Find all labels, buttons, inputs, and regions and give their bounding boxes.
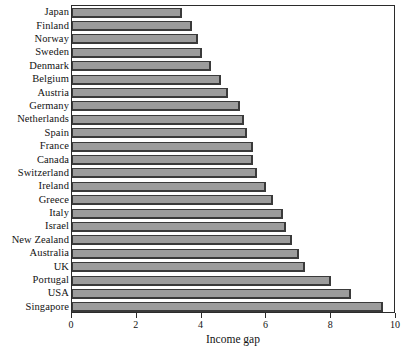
category-label: USA bbox=[0, 287, 69, 298]
bar bbox=[72, 235, 292, 245]
bar-row bbox=[72, 247, 394, 260]
category-label: France bbox=[0, 140, 69, 151]
plot-area bbox=[71, 5, 395, 313]
bar-row bbox=[72, 140, 394, 153]
x-axis-tick bbox=[395, 313, 396, 318]
x-axis-tick-label: 0 bbox=[69, 319, 74, 330]
bar-row bbox=[72, 73, 394, 86]
bar-row bbox=[72, 19, 394, 32]
bar bbox=[72, 262, 305, 272]
bar-row bbox=[72, 46, 394, 59]
bar-row bbox=[72, 167, 394, 180]
bar-row bbox=[72, 234, 394, 247]
category-label: Switzerland bbox=[0, 167, 69, 178]
bar bbox=[72, 302, 383, 312]
category-label: Israel bbox=[0, 220, 69, 231]
bar bbox=[72, 75, 221, 85]
x-axis-tick-label: 10 bbox=[390, 319, 400, 330]
category-label: UK bbox=[0, 261, 69, 272]
bar bbox=[72, 48, 202, 58]
bar bbox=[72, 142, 253, 152]
bar bbox=[72, 101, 240, 111]
category-label: Portugal bbox=[0, 274, 69, 285]
bar-row bbox=[72, 86, 394, 99]
category-label: Italy bbox=[0, 207, 69, 218]
bar-row bbox=[72, 60, 394, 73]
category-label: Canada bbox=[0, 154, 69, 165]
category-label: Ireland bbox=[0, 180, 69, 191]
x-axis-tick bbox=[330, 313, 331, 318]
x-axis-title: Income gap bbox=[71, 333, 395, 345]
bar-row bbox=[72, 301, 394, 314]
category-label: Belgium bbox=[0, 73, 69, 84]
x-axis-tick bbox=[201, 313, 202, 318]
category-label: Netherlands bbox=[0, 113, 69, 124]
x-axis-tick bbox=[265, 313, 266, 318]
x-axis-tick-label: 6 bbox=[263, 319, 268, 330]
x-axis-tick bbox=[71, 313, 72, 318]
bar bbox=[72, 21, 192, 31]
category-label: Austria bbox=[0, 87, 69, 98]
bar-row bbox=[72, 127, 394, 140]
bar bbox=[72, 61, 211, 71]
bar bbox=[72, 155, 253, 165]
bar-row bbox=[72, 220, 394, 233]
bar-row bbox=[72, 153, 394, 166]
bar bbox=[72, 182, 266, 192]
bar-row bbox=[72, 6, 394, 19]
bar-row bbox=[72, 113, 394, 126]
bar-row bbox=[72, 193, 394, 206]
bar bbox=[72, 222, 286, 232]
bar bbox=[72, 289, 351, 299]
bar bbox=[72, 115, 244, 125]
bar-row bbox=[72, 180, 394, 193]
bar bbox=[72, 209, 283, 219]
category-axis-labels: JapanFinlandNorwaySwedenDenmarkBelgiumAu… bbox=[0, 5, 69, 313]
bar-row bbox=[72, 274, 394, 287]
category-label: Greece bbox=[0, 194, 69, 205]
category-label: Norway bbox=[0, 33, 69, 44]
x-axis-tick-label: 4 bbox=[198, 319, 203, 330]
bar-row bbox=[72, 100, 394, 113]
x-axis-tick-label: 8 bbox=[328, 319, 333, 330]
category-label: Japan bbox=[0, 6, 69, 17]
bar bbox=[72, 34, 198, 44]
category-label: Australia bbox=[0, 247, 69, 258]
income-gap-bar-chart: JapanFinlandNorwaySwedenDenmarkBelgiumAu… bbox=[0, 0, 411, 354]
bar-row bbox=[72, 287, 394, 300]
x-axis-tick bbox=[136, 313, 137, 318]
x-axis-tick-label: 2 bbox=[133, 319, 138, 330]
bar bbox=[72, 195, 273, 205]
bar-row bbox=[72, 33, 394, 46]
bar bbox=[72, 168, 257, 178]
bar bbox=[72, 249, 299, 259]
category-label: Denmark bbox=[0, 60, 69, 71]
bar-row bbox=[72, 260, 394, 273]
bar-row bbox=[72, 207, 394, 220]
bar bbox=[72, 276, 331, 286]
category-label: Singapore bbox=[0, 301, 69, 312]
category-label: New Zealand bbox=[0, 234, 69, 245]
category-label: Germany bbox=[0, 100, 69, 111]
bar bbox=[72, 88, 228, 98]
bar bbox=[72, 8, 182, 18]
bar bbox=[72, 128, 247, 138]
category-label: Sweden bbox=[0, 46, 69, 57]
category-label: Finland bbox=[0, 20, 69, 31]
category-label: Spain bbox=[0, 127, 69, 138]
